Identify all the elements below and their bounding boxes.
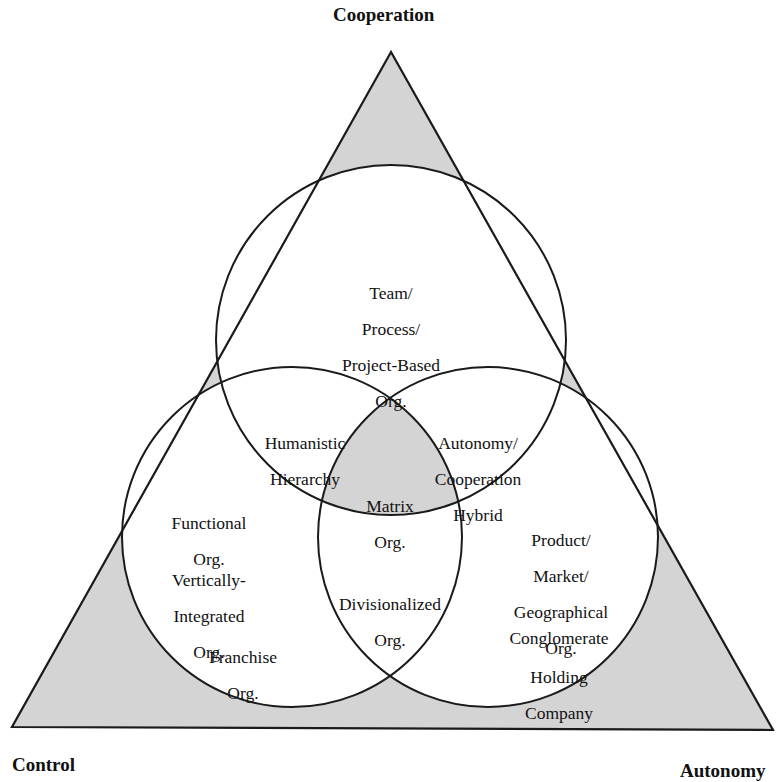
- label-line: Team/: [342, 284, 440, 302]
- vertex-label-cooperation: Cooperation: [333, 4, 434, 26]
- label-franchise-org: Franchise Org.: [209, 630, 277, 720]
- label-divisionalized-org: Divisionalized Org.: [339, 577, 441, 667]
- label-line: Product/: [514, 531, 608, 549]
- label-line: Org.: [342, 392, 440, 410]
- label-line: Hierarchy: [265, 470, 346, 488]
- label-line: Process/: [342, 320, 440, 338]
- label-autonomy-cooperation-hybrid: Autonomy/ Cooperation Hybrid: [435, 416, 522, 542]
- label-line: Conglomerate: [509, 629, 608, 647]
- vertex-label-autonomy: Autonomy: [680, 760, 766, 782]
- label-line: Franchise: [209, 648, 277, 666]
- label-line: Org.: [209, 684, 277, 702]
- label-matrix-org: Matrix Org.: [366, 479, 414, 569]
- label-line: Market/: [514, 567, 608, 585]
- label-line: Vertically-: [172, 571, 246, 589]
- label-line: Org.: [366, 533, 414, 551]
- label-line: Divisionalized: [339, 595, 441, 613]
- vertex-label-control: Control: [12, 754, 75, 776]
- label-line: Project-Based: [342, 356, 440, 374]
- label-line: Holding: [525, 668, 593, 686]
- label-line: Integrated: [172, 607, 246, 625]
- label-team-process-project: Team/ Process/ Project-Based Org.: [342, 266, 440, 428]
- label-humanistic-hierarchy: Humanistic Hierarchy: [265, 416, 346, 506]
- label-line: Cooperation: [435, 470, 522, 488]
- label-line: Company: [525, 704, 593, 722]
- label-line: Org.: [339, 631, 441, 649]
- label-line: Functional: [172, 514, 247, 532]
- label-holding-company: Holding Company: [525, 650, 593, 740]
- label-line: Matrix: [366, 497, 414, 515]
- label-line: Autonomy/: [435, 434, 522, 452]
- label-line: Hybrid: [435, 506, 522, 524]
- label-line: Humanistic: [265, 434, 346, 452]
